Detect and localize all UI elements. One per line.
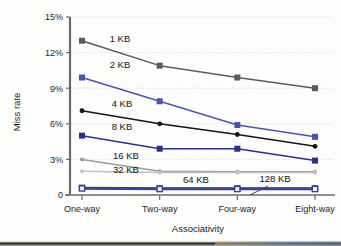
y-tick-label: 6% bbox=[50, 119, 63, 129]
series-label-32-kb: 32 KB bbox=[113, 164, 139, 175]
x-tick-label: Two-way bbox=[142, 204, 178, 214]
data-point bbox=[157, 98, 163, 104]
chart-figure: 03%6%9%12%15% One-wayTwo-wayFour-wayEigh… bbox=[0, 0, 341, 246]
data-point bbox=[312, 158, 318, 164]
data-point bbox=[313, 144, 318, 149]
series-label-4-kb: 4 KB bbox=[112, 98, 133, 109]
x-tick-label: Eight-way bbox=[295, 204, 335, 214]
data-point bbox=[235, 170, 239, 174]
data-point bbox=[313, 170, 317, 174]
data-point bbox=[157, 121, 162, 126]
data-point bbox=[157, 63, 163, 69]
data-point bbox=[312, 186, 317, 191]
data-point bbox=[157, 146, 163, 152]
series-label-1-kb: 1 KB bbox=[110, 33, 131, 44]
series-label-2-kb: 2 KB bbox=[110, 59, 131, 70]
data-point bbox=[80, 169, 84, 173]
scan-color-fringe bbox=[215, 241, 341, 246]
y-tick-label: 9% bbox=[50, 84, 63, 94]
x-axis-title: Associativity bbox=[172, 223, 225, 234]
data-point bbox=[80, 157, 84, 161]
data-point bbox=[312, 85, 318, 91]
data-point bbox=[312, 134, 318, 140]
data-point bbox=[79, 186, 84, 191]
series-line bbox=[82, 188, 315, 189]
series-label-8-kb: 8 KB bbox=[112, 121, 133, 132]
y-tick-label: 15% bbox=[45, 12, 63, 22]
data-point bbox=[158, 170, 162, 174]
data-point bbox=[234, 75, 240, 81]
data-point bbox=[79, 133, 85, 139]
y-tick-label: 0 bbox=[58, 190, 63, 200]
y-axis-ticks: 03%6%9%12%15% bbox=[45, 12, 70, 200]
series-annotations: 1 KB2 KB4 KB8 KB16 KB32 KB64 KB128 KB bbox=[110, 33, 291, 185]
x-axis-ticks: One-wayTwo-wayFour-wayEight-way bbox=[64, 195, 335, 214]
series-label-16-kb: 16 KB bbox=[113, 150, 139, 161]
data-point bbox=[234, 122, 240, 128]
data-point bbox=[80, 108, 85, 113]
series-label-128-kb: 128 KB bbox=[259, 173, 290, 184]
x-tick-label: Four-way bbox=[219, 204, 257, 214]
series-128-kb bbox=[79, 186, 317, 192]
data-point bbox=[235, 132, 240, 137]
data-point bbox=[235, 186, 240, 191]
y-tick-label: 3% bbox=[50, 155, 63, 165]
series-label-64-kb: 64 KB bbox=[183, 174, 209, 185]
x-tick-label: One-way bbox=[64, 204, 101, 214]
data-point bbox=[79, 75, 85, 81]
y-tick-label: 12% bbox=[45, 48, 63, 58]
data-point bbox=[79, 38, 85, 44]
miss-rate-line-chart: 03%6%9%12%15% One-wayTwo-wayFour-wayEigh… bbox=[0, 0, 341, 246]
data-point bbox=[157, 186, 162, 191]
y-axis-title: Miss rate bbox=[11, 93, 22, 132]
data-point bbox=[234, 146, 240, 152]
axis-lines bbox=[65, 17, 335, 195]
